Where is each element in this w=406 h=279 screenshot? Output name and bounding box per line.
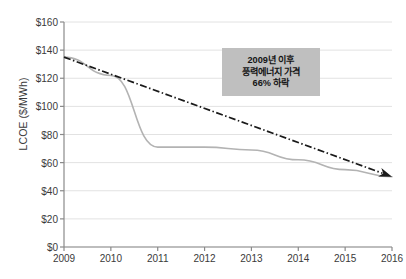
annotation-line-2: 풍력에너지 가격 (242, 67, 301, 78)
x-tick-label: 2014 (287, 253, 309, 264)
x-tick-label: 2016 (381, 253, 403, 264)
annotation-line-1: 2009년 이후 (248, 55, 295, 66)
annotation-line-3: 66% 하락 (253, 78, 290, 89)
chart-container: LCOE ($/MWh) $0$20$40$60$80$100$120$140$… (0, 0, 406, 279)
trend-arrowhead (378, 168, 392, 177)
x-tick-label: 2012 (193, 253, 215, 264)
x-tick-label: 2010 (100, 253, 122, 264)
annotation-callout: 2009년 이후 풍력에너지 가격 66% 하락 (222, 48, 320, 96)
x-tick-label: 2013 (240, 253, 262, 264)
x-tick-label: 2015 (334, 253, 356, 264)
x-axis-tick-marks (64, 247, 392, 251)
x-tick-label: 2009 (53, 253, 75, 264)
x-tick-label: 2011 (147, 253, 169, 264)
plot-area (0, 0, 406, 279)
